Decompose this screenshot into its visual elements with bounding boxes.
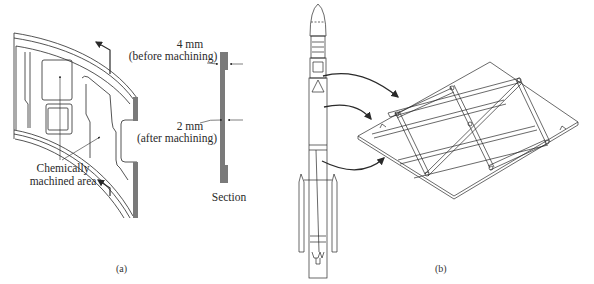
- figure: 4 mm (before machining) 2 mm (after mach…: [0, 0, 594, 284]
- dimension-before-note: (before machining): [128, 50, 218, 62]
- launch-vehicle: [299, 4, 337, 278]
- dimension-after-note: (after machining): [136, 132, 218, 144]
- dimension-after-value: 2 mm: [160, 120, 220, 132]
- callout-leaders: [60, 76, 100, 160]
- curved-panel: [14, 33, 137, 218]
- flange-section-top: [133, 97, 138, 121]
- section-profile: [220, 52, 228, 183]
- caption-b: (b): [435, 263, 447, 274]
- callout-area-line1: Chemically: [20, 162, 106, 174]
- isogrid-panel: [358, 62, 578, 199]
- callout-area-line2: machined area: [14, 175, 112, 187]
- diagram-drawing: [0, 0, 594, 284]
- section-label: Section: [204, 191, 254, 203]
- dimension-before-value: 4 mm: [160, 38, 220, 50]
- connector-arrows: [322, 74, 398, 170]
- caption-a: (a): [116, 263, 127, 274]
- flange-section-bottom: [133, 162, 138, 218]
